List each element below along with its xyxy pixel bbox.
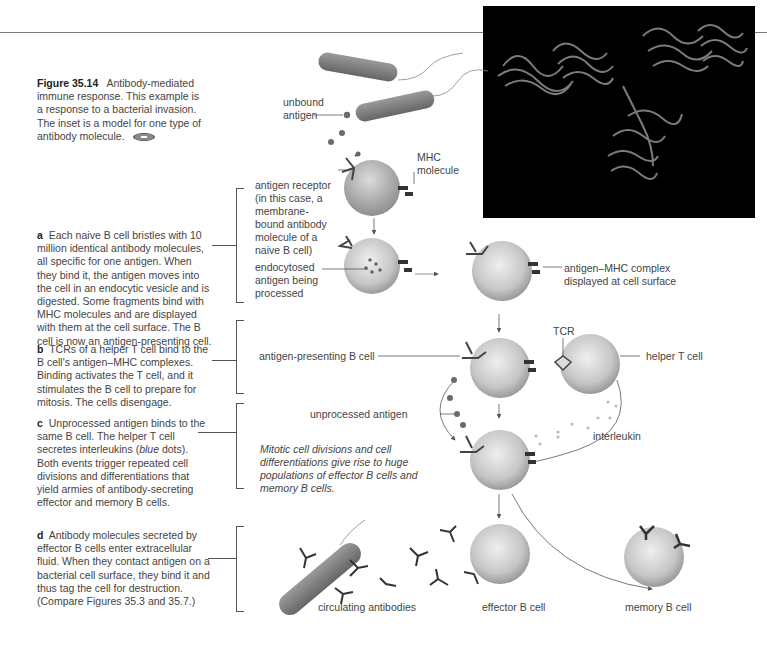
label-endocytosed-antigen: endocytosed antigen being processed bbox=[255, 261, 325, 300]
label-memory-b-cell: memory B cell bbox=[625, 601, 692, 614]
label-antigen-receptor: antigen receptor (in this case, a membra… bbox=[255, 179, 337, 257]
label-unprocessed-antigen: unprocessed antigen bbox=[310, 408, 408, 421]
endocytosing-b-cell bbox=[344, 238, 400, 294]
label-circulating-antibodies: circulating antibodies bbox=[318, 601, 416, 614]
dividing-b-cell bbox=[470, 430, 530, 490]
label-mhc-molecule: MHC molecule bbox=[417, 151, 467, 177]
label-antigen-presenting-b-cell: antigen-presenting B cell bbox=[259, 350, 375, 363]
label-unbound-antigen: unbound antigen bbox=[283, 96, 333, 122]
label-tcr: TCR bbox=[553, 325, 575, 338]
antigen-presenting-b-cell-2 bbox=[470, 338, 530, 398]
bacterium-1 bbox=[317, 51, 463, 83]
label-antigen-mhc-complex: antigen–MHC complex displayed at cell su… bbox=[564, 262, 689, 288]
memory-b-cell bbox=[624, 527, 684, 587]
immune-response-diagram bbox=[0, 0, 767, 648]
antigen-presenting-b-cell-1 bbox=[472, 241, 532, 301]
label-interleukin: interleukin bbox=[593, 430, 641, 443]
mitotic-note: Mitotic cell divisions and cell differen… bbox=[260, 443, 420, 495]
label-effector-b-cell: effector B cell bbox=[482, 601, 545, 614]
effector-b-cell bbox=[470, 524, 530, 584]
label-helper-t-cell: helper T cell bbox=[646, 350, 703, 363]
